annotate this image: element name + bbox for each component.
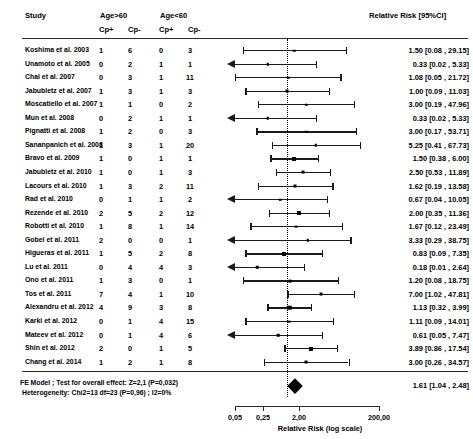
cell-g1-cp-neg: 2 — [121, 128, 139, 135]
table-row: Bravo et al. 200910111.50 [0.38 , 6.00] — [0, 153, 473, 164]
study-name: Jabubletz et al. 2007 — [25, 88, 92, 95]
cell-g2-cp-pos: 1 — [152, 61, 170, 68]
ci-upper-cap — [350, 237, 351, 244]
ci-lower-cap — [269, 210, 270, 217]
table-row: Sananpanich et al. 2008131205.25 [0.41 ,… — [0, 140, 473, 151]
ci-upper-cap — [333, 318, 334, 325]
column-header-relative-risk: Relative Risk [95%CI] — [369, 12, 446, 20]
cell-g1-cp-neg: 0 — [121, 237, 139, 244]
study-name: Karki et al. 2012 — [25, 318, 77, 325]
cell-g1-cp-pos: 1 — [92, 183, 110, 190]
point-estimate-marker — [297, 211, 301, 215]
ci-upper-cap — [330, 169, 331, 176]
ci-upper-cap — [340, 74, 341, 81]
cell-relative-risk: 0.33 [0.02 , 5.33] — [349, 115, 469, 122]
study-name: Moscatiello et al. 2007 — [25, 101, 97, 108]
cell-g2-cp-pos: 0 — [152, 101, 170, 108]
cell-g2-cp-pos: 0 — [152, 47, 170, 54]
cell-g2-cp-pos: 2 — [152, 210, 170, 217]
summary-rr-value: 1.61 [1.04 , 2.48] — [349, 382, 469, 389]
study-name: Gobel et al. 2011 — [25, 237, 79, 244]
cell-g1-cp-neg: 6 — [121, 47, 139, 54]
ci-upper-cap — [338, 277, 339, 284]
cell-relative-risk: 3.89 [0.86 , 17.54] — [349, 345, 469, 352]
cell-g1-cp-neg: 0 — [121, 169, 139, 176]
column-header-age-over-60: Age>60 — [100, 12, 127, 20]
ci-lower-cap — [264, 359, 265, 366]
cell-g1-cp-pos: 1 — [92, 128, 110, 135]
ci-upper-cap — [327, 196, 328, 203]
cell-relative-risk: 3.33 [0.29 , 38.75] — [349, 237, 469, 244]
ci-upper-cap — [346, 47, 347, 54]
cell-relative-risk: 7.00 [1.02 , 47.81] — [349, 291, 469, 298]
cell-relative-risk: 1.08 [0.05 , 21.72] — [349, 74, 469, 81]
cell-g2-cp-neg: 1 — [181, 155, 199, 162]
ci-lower-cap — [245, 318, 246, 325]
table-row: Gobel et al. 201120013.33 [0.29 , 38.75] — [0, 235, 473, 246]
ci-lower-cap — [270, 155, 271, 162]
cell-g1-cp-pos: 4 — [92, 304, 110, 311]
point-estimate-marker — [309, 347, 313, 351]
cell-g2-cp-pos: 0 — [152, 128, 170, 135]
cell-g1-cp-neg: 5 — [121, 210, 139, 217]
column-header-study: Study — [25, 12, 46, 20]
ci-lower-cap — [267, 304, 268, 311]
cell-g2-cp-pos: 4 — [152, 264, 170, 271]
header-divider — [22, 38, 468, 39]
cell-g2-cp-neg: 3 — [181, 47, 199, 54]
cell-g1-cp-neg: 1 — [121, 101, 139, 108]
ci-upper-cap — [316, 61, 317, 68]
cell-g1-cp-neg: 5 — [121, 250, 139, 257]
confidence-interval-line — [235, 64, 316, 65]
ci-upper-cap — [322, 250, 323, 257]
point-estimate-marker — [305, 103, 307, 105]
cell-relative-risk: 2.00 [0.35 , 11.36] — [349, 210, 469, 217]
table-row: Mateev et al. 201201460.61 [0.05 , 7.47] — [0, 330, 473, 341]
cell-g2-cp-neg: 2 — [181, 101, 199, 108]
cell-g1-cp-neg: 3 — [121, 74, 139, 81]
cell-g2-cp-pos: 1 — [152, 74, 170, 81]
cell-g2-cp-neg: 15 — [181, 318, 199, 325]
cell-g1-cp-neg: 2 — [121, 359, 139, 366]
table-row: Lacours et al. 2010132111.62 [0.19 , 13.… — [0, 181, 473, 192]
cell-g2-cp-pos: 0 — [152, 237, 170, 244]
cell-g2-cp-pos: 1 — [152, 223, 170, 230]
ci-upper-cap — [322, 332, 323, 339]
table-row: Pignatti et al. 200812033.00 [0.17 , 53.… — [0, 126, 473, 137]
point-estimate-marker — [301, 171, 304, 174]
summary-divider — [22, 371, 468, 372]
cell-g1-cp-pos: 7 — [92, 291, 110, 298]
cell-relative-risk: 1.50 [0.38 , 6.00] — [349, 155, 469, 162]
ci-upper-cap — [311, 304, 312, 311]
x-axis-tick — [263, 406, 264, 411]
ci-left-arrow — [227, 60, 235, 68]
study-name: Jabubletz et al. 2010 — [25, 169, 92, 176]
cell-g2-cp-neg: 5 — [181, 345, 199, 352]
x-axis-title: Relative Risk (log scale) — [225, 424, 415, 433]
cell-g1-cp-neg: 1 — [121, 196, 139, 203]
cell-relative-risk: 3.00 [0.26 , 34.57] — [349, 359, 469, 366]
cell-g1-cp-pos: 0 — [92, 61, 110, 68]
cell-g2-cp-neg: 3 — [181, 169, 199, 176]
ci-lower-cap — [250, 223, 251, 230]
cell-g1-cp-pos: 2 — [92, 237, 110, 244]
study-name: Mun et al. 2008 — [25, 115, 74, 122]
cell-relative-risk: 0.83 [0.09 , 7.35] — [349, 250, 469, 257]
cell-g2-cp-pos: 1 — [152, 196, 170, 203]
point-estimate-marker — [279, 198, 281, 200]
ci-upper-cap — [349, 359, 350, 366]
cell-relative-risk: 0.33 [0.02 , 5.33] — [349, 61, 469, 68]
point-estimate-marker — [305, 361, 308, 364]
table-row: Chai et al. 2007031111.08 [0.05 , 21.72] — [0, 72, 473, 83]
ci-upper-cap — [356, 128, 357, 135]
x-axis-tick — [379, 406, 380, 411]
cell-g1-cp-neg: 3 — [121, 142, 139, 149]
cell-relative-risk: 0.61 [0.05 , 7.47] — [349, 332, 469, 339]
ci-upper-cap — [318, 155, 319, 162]
ci-lower-cap — [243, 47, 244, 54]
cell-g2-cp-neg: 2 — [181, 196, 199, 203]
cell-g1-cp-neg: 0 — [121, 155, 139, 162]
ci-lower-cap — [272, 142, 273, 149]
table-row: Alexandru et al. 201249381.13 [0.32 , 3.… — [0, 302, 473, 313]
study-name: Robotti et al. 2010 — [25, 223, 84, 230]
